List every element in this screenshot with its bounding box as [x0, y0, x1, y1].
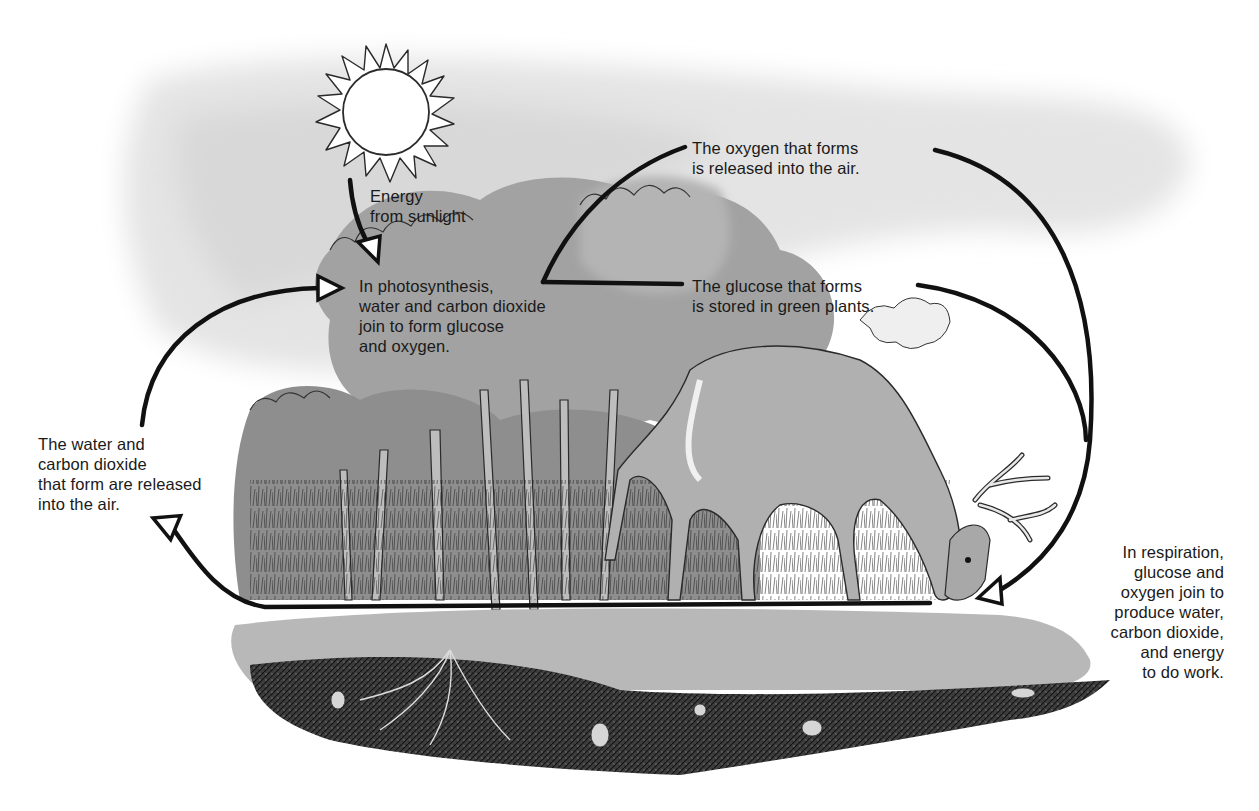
illustration-canvas [0, 0, 1259, 811]
arrow-to-glucose [543, 282, 682, 284]
antlers-fill [975, 455, 1055, 540]
label-water-co2-released: The water and carbon dioxide that form a… [38, 434, 202, 514]
antlers [975, 455, 1055, 540]
label-photosynthesis: In photosynthesis, water and carbon diox… [359, 276, 546, 356]
soil-cross-section [231, 608, 1110, 775]
label-energy-from-sunlight: Energy from sunlight [370, 186, 466, 226]
label-glucose-stored: The glucose that forms is stored in gree… [692, 276, 874, 316]
photosynthesis-respiration-diagram: Energy from sunlight In photosynthesis, … [0, 0, 1259, 811]
label-oxygen-released: The oxygen that forms is released into t… [692, 138, 860, 178]
label-respiration: In respiration, glucose and oxygen join … [1111, 542, 1224, 682]
